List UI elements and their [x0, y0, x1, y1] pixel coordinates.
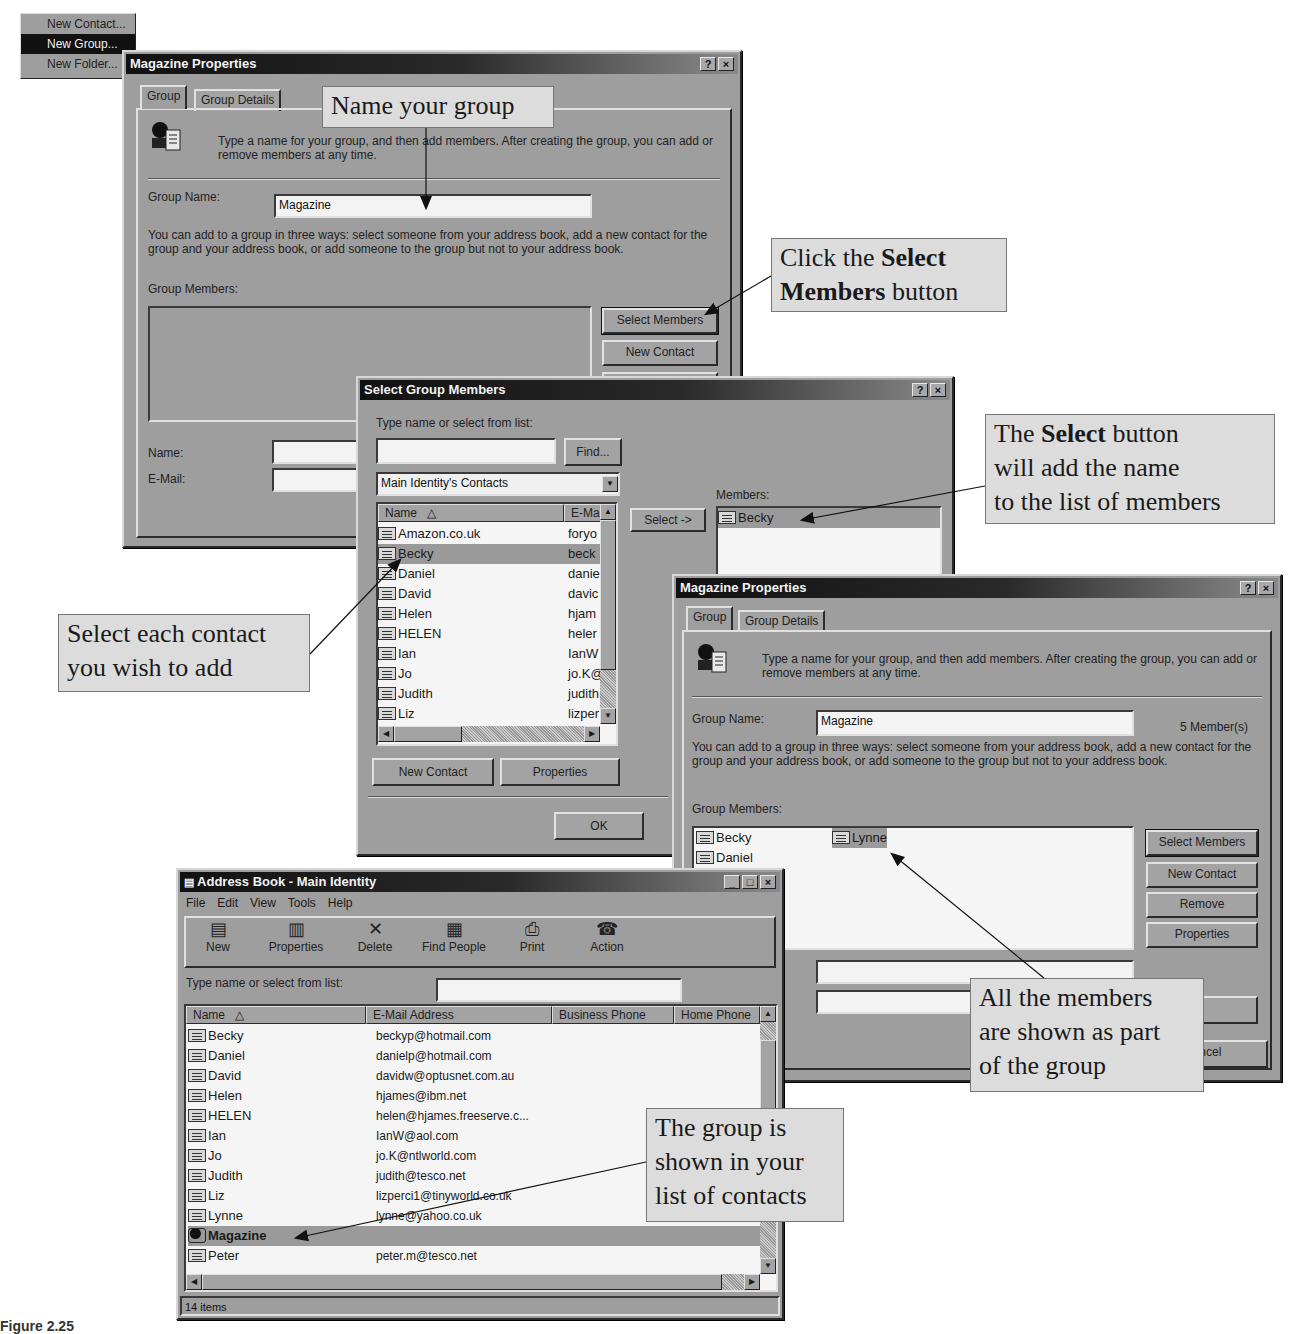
scroll-down-icon[interactable]: ▼ — [600, 708, 616, 724]
menu-item-new-folder[interactable]: New Folder... — [21, 54, 135, 74]
close-button[interactable]: × — [930, 383, 946, 397]
ok-button[interactable]: OK — [554, 812, 644, 840]
scroll-thumb[interactable] — [600, 520, 616, 670]
horizontal-scrollbar[interactable]: ◀ ▶ — [186, 1274, 760, 1290]
contact-card-icon — [378, 687, 396, 700]
action-icon: ☎ — [584, 918, 630, 940]
group-name-input[interactable]: Magazine — [816, 710, 1134, 736]
maximize-button[interactable]: □ — [742, 875, 758, 889]
list-item[interactable]: Amazon.co.ukforyo — [378, 524, 602, 544]
select-button[interactable]: Select -> — [630, 508, 706, 532]
menu-item-new-contact[interactable]: New Contact... — [21, 14, 135, 34]
new-contact-button[interactable]: New Contact — [602, 340, 718, 366]
list-item[interactable]: Beckybeck — [378, 544, 602, 564]
contact-card-icon — [188, 1189, 206, 1202]
remove-button[interactable]: Remove — [1146, 892, 1258, 918]
close-button[interactable]: × — [760, 875, 776, 889]
close-button[interactable]: × — [718, 57, 734, 71]
vertical-scrollbar[interactable]: ▲ ▼ — [600, 504, 616, 724]
column-header-email[interactable]: E-Mail Address — [366, 1006, 552, 1024]
dialog-titlebar: Magazine Properties ? × — [676, 578, 1278, 598]
scroll-right-icon[interactable]: ▶ — [584, 726, 600, 742]
list-item[interactable]: Becky — [718, 508, 940, 528]
contact-card-icon — [188, 1029, 206, 1042]
intro-text: Type a name for your group, and then add… — [218, 134, 718, 162]
menu-file[interactable]: File — [186, 896, 205, 910]
list-item[interactable]: Lizlizper — [378, 704, 602, 724]
search-label: Type name or select from list: — [186, 976, 343, 990]
table-row[interactable]: Peterpeter.m@tesco.net — [188, 1246, 760, 1266]
scroll-up-icon[interactable]: ▲ — [600, 504, 616, 520]
search-input[interactable] — [436, 978, 682, 1002]
group-icon — [188, 1228, 206, 1243]
table-row[interactable]: Beckybeckyp@hotmail.com — [188, 1026, 760, 1046]
divider — [368, 796, 668, 798]
new-contact-button[interactable]: New Contact — [372, 758, 494, 786]
scroll-left-icon[interactable]: ◀ — [378, 726, 394, 742]
search-label: Type name or select from list: — [376, 416, 533, 430]
table-row[interactable]: Helenhjames@ibm.net — [188, 1086, 760, 1106]
table-row[interactable]: Daviddavidw@optusnet.com.au — [188, 1066, 760, 1086]
minimize-button[interactable]: _ — [724, 875, 740, 889]
list-item[interactable]: Daniel — [696, 848, 753, 868]
toolbar-print-button[interactable]: ⎙Print — [512, 918, 552, 954]
help-button[interactable]: ? — [700, 57, 716, 71]
column-header-name[interactable]: Name △ — [186, 1006, 366, 1024]
column-header-name[interactable]: Name △ — [378, 504, 564, 522]
group-name-input[interactable]: Magazine — [274, 194, 592, 218]
members-list[interactable]: Becky — [716, 506, 942, 578]
column-header-email[interactable]: E-Ma — [564, 504, 602, 522]
list-item[interactable]: Lynne — [832, 828, 887, 848]
contact-card-icon — [188, 1209, 206, 1222]
column-header-business-phone[interactable]: Business Phone — [552, 1006, 674, 1024]
help-button[interactable]: ? — [1240, 581, 1256, 595]
tab-group[interactable]: Group — [686, 606, 733, 630]
list-item[interactable]: Judithjudith — [378, 684, 602, 704]
list-item[interactable]: HELENheler — [378, 624, 602, 644]
find-people-icon: ▦ — [416, 918, 492, 940]
menu-item-new-group[interactable]: New Group... — [21, 34, 135, 54]
search-input[interactable] — [376, 438, 556, 464]
menu-tools[interactable]: Tools — [288, 896, 316, 910]
divider — [148, 178, 720, 180]
select-members-button[interactable]: Select Members — [1146, 830, 1258, 856]
column-header-home-phone[interactable]: Home Phone — [674, 1006, 760, 1024]
list-item[interactable]: Helenhjam — [378, 604, 602, 624]
list-item[interactable]: IanIanW — [378, 644, 602, 664]
toolbar-new-button[interactable]: ▤New — [198, 918, 238, 954]
contact-card-icon — [696, 831, 714, 844]
toolbar-find-people-button[interactable]: ▦Find People — [416, 918, 492, 954]
toolbar-properties-button[interactable]: ▥Properties — [264, 918, 328, 954]
scroll-down-icon[interactable]: ▼ — [760, 1258, 776, 1274]
menu-view[interactable]: View — [250, 896, 276, 910]
toolbar-delete-button[interactable]: ✕Delete — [352, 918, 398, 954]
scroll-right-icon[interactable]: ▶ — [744, 1274, 760, 1290]
list-item[interactable]: Daviddavic — [378, 584, 602, 604]
select-members-button[interactable]: Select Members — [602, 308, 718, 334]
close-button[interactable]: × — [1258, 581, 1274, 595]
scroll-thumb[interactable] — [394, 726, 462, 742]
scroll-up-icon[interactable]: ▲ — [760, 1006, 776, 1022]
chevron-down-icon[interactable]: ▼ — [602, 476, 618, 492]
properties-button[interactable]: Properties — [1146, 922, 1258, 948]
toolbar-action-button[interactable]: ☎Action — [584, 918, 630, 954]
find-button[interactable]: Find... — [564, 438, 622, 466]
tab-group-details[interactable]: Group Details — [738, 610, 825, 632]
contacts-source-dropdown[interactable]: Main Identity's Contacts ▼ — [376, 472, 620, 496]
list-item[interactable]: Danieldanie — [378, 564, 602, 584]
contacts-list[interactable]: Name △ E-Ma Amazon.co.ukforyo Beckybeck … — [376, 502, 618, 746]
list-item[interactable]: Becky — [696, 828, 753, 848]
scroll-left-icon[interactable]: ◀ — [186, 1274, 202, 1290]
horizontal-scrollbar[interactable]: ◀ ▶ — [378, 726, 600, 742]
properties-button[interactable]: Properties — [500, 758, 620, 786]
list-item[interactable]: Jojo.K@ — [378, 664, 602, 684]
table-row[interactable]: Danieldanielp@hotmail.com — [188, 1046, 760, 1066]
menu-edit[interactable]: Edit — [217, 896, 238, 910]
intro-text: Type a name for your group, and then add… — [762, 652, 1262, 680]
menu-help[interactable]: Help — [328, 896, 353, 910]
tab-group[interactable]: Group — [140, 85, 187, 109]
new-contact-button[interactable]: New Contact — [1146, 862, 1258, 888]
help-button[interactable]: ? — [912, 383, 928, 397]
table-row-group[interactable]: Magazine — [188, 1226, 760, 1246]
scroll-thumb[interactable] — [202, 1274, 722, 1290]
